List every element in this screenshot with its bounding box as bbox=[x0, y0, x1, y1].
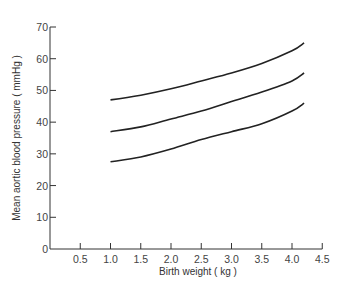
y-tick-label: 60 bbox=[36, 53, 48, 65]
x-tick-label: 1.0 bbox=[103, 253, 118, 265]
y-tick-label: 30 bbox=[36, 148, 48, 160]
y-tick-label: 10 bbox=[36, 211, 48, 223]
y-tick-label: 0 bbox=[42, 243, 48, 255]
curve-lower bbox=[111, 103, 305, 162]
x-axis-title: Birth weight ( kg ) bbox=[159, 266, 237, 277]
y-tick-label: 70 bbox=[36, 21, 48, 33]
y-axis-title: Mean aortic blood pressure ( mmHg ) bbox=[11, 55, 22, 221]
x-tick-label: 3.0 bbox=[224, 253, 239, 265]
y-axis-ticks: 010203040506070 bbox=[36, 21, 56, 255]
x-tick-label: 2.5 bbox=[194, 253, 209, 265]
y-tick-label: 40 bbox=[36, 116, 48, 128]
x-axis-ticks: 0.51.01.52.02.53.03.54.04.5 bbox=[73, 243, 330, 265]
axes bbox=[50, 27, 322, 249]
data-curves bbox=[111, 43, 305, 162]
x-tick-label: 4.5 bbox=[315, 253, 330, 265]
x-tick-label: 2.0 bbox=[164, 253, 179, 265]
x-tick-label: 4.0 bbox=[285, 253, 300, 265]
curve-upper bbox=[111, 43, 305, 100]
curve-middle bbox=[111, 73, 305, 132]
y-tick-label: 20 bbox=[36, 180, 48, 192]
x-tick-label: 1.5 bbox=[133, 253, 148, 265]
x-tick-label: 3.5 bbox=[254, 253, 269, 265]
line-chart: 010203040506070 0.51.01.52.02.53.03.54.0… bbox=[0, 0, 347, 291]
y-tick-label: 50 bbox=[36, 84, 48, 96]
x-tick-label: 0.5 bbox=[73, 253, 88, 265]
